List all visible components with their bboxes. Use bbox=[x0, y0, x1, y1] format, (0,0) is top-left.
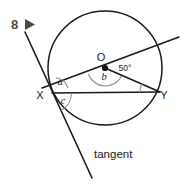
label-angle-a: a bbox=[57, 76, 62, 87]
label-angle-50-degrees: 50° bbox=[119, 63, 132, 73]
label-point-y: Y bbox=[160, 89, 168, 101]
angle-arc-50 bbox=[140, 84, 142, 92]
label-point-o: O bbox=[97, 51, 106, 63]
label-tangent: tangent bbox=[94, 148, 133, 160]
tangent-line bbox=[25, 32, 92, 178]
geometry-figure: O X Y a b c 50° tangent 8 bbox=[0, 0, 184, 189]
question-number: 8 bbox=[11, 17, 18, 32]
label-point-x: X bbox=[36, 89, 44, 101]
chord-xy bbox=[52, 92, 160, 93]
circle-tangent-diagram: O X Y a b c 50° tangent 8 bbox=[0, 0, 184, 189]
play-triangle-icon bbox=[25, 19, 35, 30]
label-angle-c: c bbox=[61, 95, 66, 106]
label-angle-b: b bbox=[101, 71, 106, 82]
radius-oy bbox=[105, 68, 160, 92]
